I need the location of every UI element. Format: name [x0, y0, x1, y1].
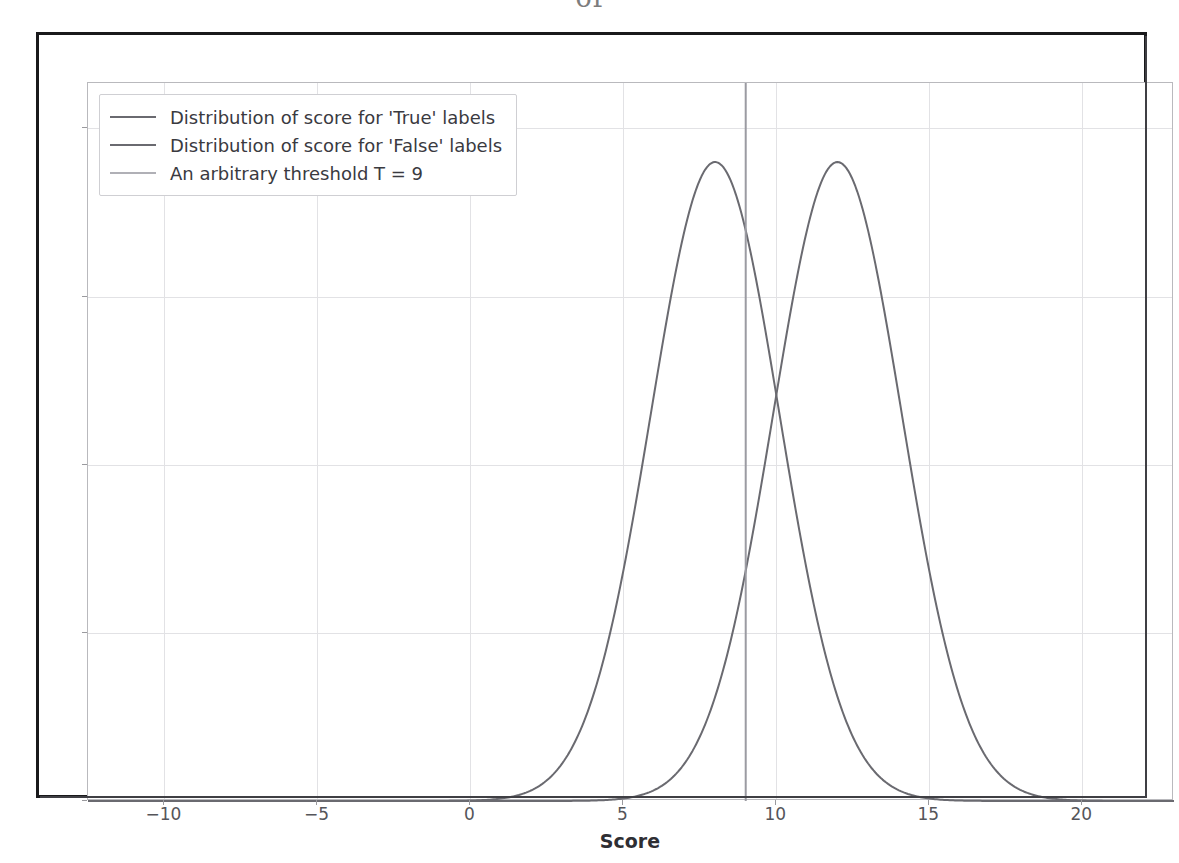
curve-series-1 [88, 162, 1174, 801]
legend-line-swatch-threshold [110, 172, 156, 174]
curve-series-0 [88, 162, 1174, 801]
page-text-artifact: of [0, 0, 1179, 13]
y-axis-tick [82, 296, 87, 297]
legend-line-swatch-true [110, 116, 156, 118]
x-axis-tick-label: 5 [617, 804, 628, 824]
x-axis-tick-label: −10 [146, 804, 182, 824]
x-axis-tick-label: 20 [1070, 804, 1092, 824]
legend-item-true: Distribution of score for 'True' labels [110, 103, 502, 131]
x-axis-tick-label: 15 [917, 804, 939, 824]
x-axis-label: Score [87, 830, 1173, 852]
x-axis-tick-label: 10 [764, 804, 786, 824]
legend-label-false: Distribution of score for 'False' labels [170, 135, 502, 156]
legend-item-false: Distribution of score for 'False' labels [110, 131, 502, 159]
x-axis-tick-label: 0 [464, 804, 475, 824]
y-axis-tick [82, 800, 87, 801]
y-axis-tick [82, 127, 87, 128]
legend-line-swatch-false [110, 144, 156, 146]
legend-label-true: Distribution of score for 'True' labels [170, 107, 495, 128]
legend-label-threshold: An arbitrary threshold T = 9 [170, 163, 423, 184]
x-axis-tick-label: −5 [304, 804, 329, 824]
legend-item-threshold: An arbitrary threshold T = 9 [110, 159, 502, 187]
chart-legend: Distribution of score for 'True' labels … [99, 94, 517, 196]
y-axis-tick [82, 464, 87, 465]
plot-area: −10−505101520 Score Distribution of scor… [87, 82, 1173, 800]
figure-frame: −10−505101520 Score Distribution of scor… [36, 32, 1147, 798]
y-axis-tick [82, 632, 87, 633]
